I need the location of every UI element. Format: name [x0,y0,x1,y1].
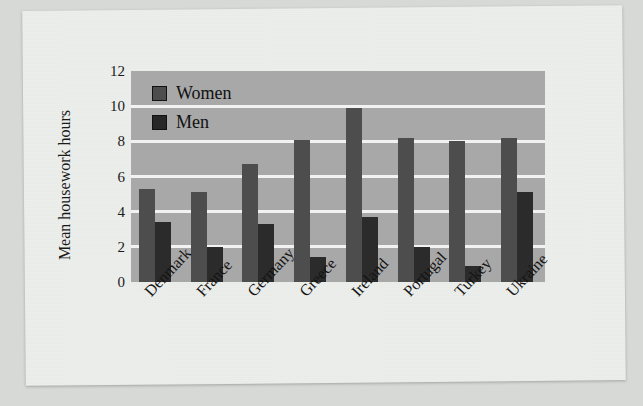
bar-ukraine-women [501,138,517,282]
women-swatch-icon [152,86,167,101]
y-tick-label: 12 [99,64,125,79]
bar-portugal-women [398,138,414,282]
y-tick-label: 2 [99,239,125,254]
men-swatch-icon [152,115,167,130]
legend-label-women: Women [176,84,232,102]
y-tick-label: 10 [99,99,125,114]
bar-group [286,71,338,282]
y-axis-label: Mean housework hours [56,80,74,290]
chart-legend: Women Men [152,84,232,142]
bar-france-women [191,192,207,282]
bar-chart-figure: Mean housework hours 024681012 Women Men… [0,0,643,406]
y-axis: 024681012 [95,71,125,282]
bar-group [442,71,494,282]
y-tick-label: 0 [99,275,125,290]
bar-ireland-women [346,108,362,282]
y-tick-label: 4 [99,204,125,219]
y-tick-label: 8 [99,134,125,149]
bar-turkey-women [449,141,465,282]
legend-item-men: Men [152,113,232,131]
legend-item-women: Women [152,84,232,102]
y-tick-label: 6 [99,169,125,184]
legend-label-men: Men [176,113,209,131]
bar-germany-women [242,164,258,282]
bar-denmark-women [139,189,155,282]
bar-greece-women [294,140,310,282]
bar-group [338,71,390,282]
